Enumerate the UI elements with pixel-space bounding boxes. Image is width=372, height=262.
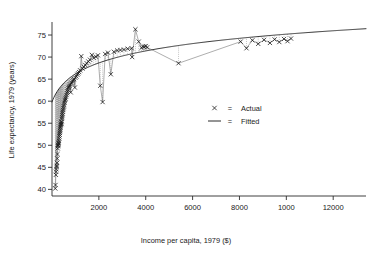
x-tick-label: 1000 <box>278 203 295 212</box>
data-point-marker <box>289 36 293 40</box>
life-expectancy-vs-income-scatter: 4045505560657075 20004000600080001000120… <box>0 0 372 262</box>
y-tick-label: 65 <box>38 75 46 84</box>
x-axis-ticks: 2000400060008000100012000 <box>90 196 343 212</box>
data-point-marker <box>244 46 248 50</box>
legend-entry-fitted: = Fitted <box>208 117 259 126</box>
data-point-marker <box>145 45 149 49</box>
y-tick-label: 40 <box>38 185 46 194</box>
data-point-marker <box>250 38 254 42</box>
legend-label-fitted: Fitted <box>241 117 259 126</box>
y-axis-ticks: 4045505560657075 <box>38 31 52 194</box>
data-point-marker <box>285 39 289 43</box>
x-tick-label: 6000 <box>184 203 201 212</box>
y-axis-title: Life expectancy, 1979 (years) <box>7 62 16 158</box>
fitted-curve <box>52 29 366 102</box>
y-tick-label: 50 <box>38 141 46 150</box>
data-point-marker <box>256 42 260 46</box>
data-point-marker <box>273 37 277 41</box>
y-tick-label: 70 <box>38 53 46 62</box>
axes-group: 4045505560657075 20004000600080001000120… <box>38 22 366 212</box>
data-point-marker <box>262 38 266 42</box>
chart-figure: 4045505560657075 20004000600080001000120… <box>0 0 372 262</box>
data-point-marker <box>277 40 281 44</box>
data-point-marker <box>239 40 243 44</box>
x-tick-label: 2000 <box>90 203 107 212</box>
legend-x-marker-icon <box>212 106 216 110</box>
x-axis-title: Income per capita, 1979 ($) <box>141 236 231 245</box>
y-tick-label: 45 <box>38 163 46 172</box>
y-tick-label: 75 <box>38 31 46 40</box>
x-tick-label: 8000 <box>231 203 248 212</box>
x-tick-label: 4000 <box>137 203 154 212</box>
data-point-marker <box>137 40 141 44</box>
data-point-marker <box>176 61 180 65</box>
legend-entry-actual: = Actual <box>212 104 262 113</box>
data-point-marker <box>282 37 286 41</box>
y-tick-label: 60 <box>38 97 46 106</box>
chart-legend: = Actual = Fitted <box>208 104 262 126</box>
data-point-marker <box>268 41 272 45</box>
legend-equals-fitted: = <box>228 117 232 126</box>
y-tick-label: 55 <box>38 119 46 128</box>
x-tick-label: 12000 <box>323 203 344 212</box>
legend-equals-actual: = <box>228 104 232 113</box>
legend-label-actual: Actual <box>241 104 262 113</box>
